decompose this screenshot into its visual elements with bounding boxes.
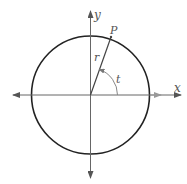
point-p-label: P xyxy=(109,24,118,37)
radius-label: r xyxy=(94,51,100,64)
x-axis-label: x xyxy=(174,81,181,95)
angle-label: t xyxy=(116,73,121,86)
y-axis-label: y xyxy=(93,8,101,22)
radius-line xyxy=(91,37,112,95)
angle-arc xyxy=(100,70,118,96)
unit-circle-diagram: y x P r t xyxy=(0,0,187,184)
